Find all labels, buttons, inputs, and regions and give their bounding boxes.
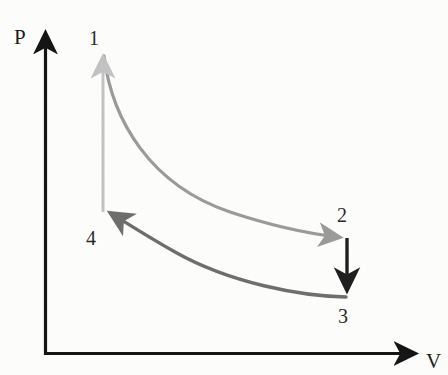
process-curve-1-to-2 [104, 56, 338, 237]
state-point-label-4: 4 [86, 228, 96, 248]
state-point-label-1: 1 [89, 28, 99, 48]
process-curve-3-to-4 [112, 214, 346, 297]
pressure-axis-label: P [14, 27, 26, 48]
pv-diagram-canvas [0, 0, 448, 375]
pv-diagram-figure: P V 1 2 3 4 [0, 0, 448, 375]
state-point-label-2: 2 [337, 205, 347, 225]
state-point-label-3: 3 [338, 306, 348, 326]
volume-axis-label: V [426, 351, 441, 372]
axes-group [44, 34, 414, 355]
